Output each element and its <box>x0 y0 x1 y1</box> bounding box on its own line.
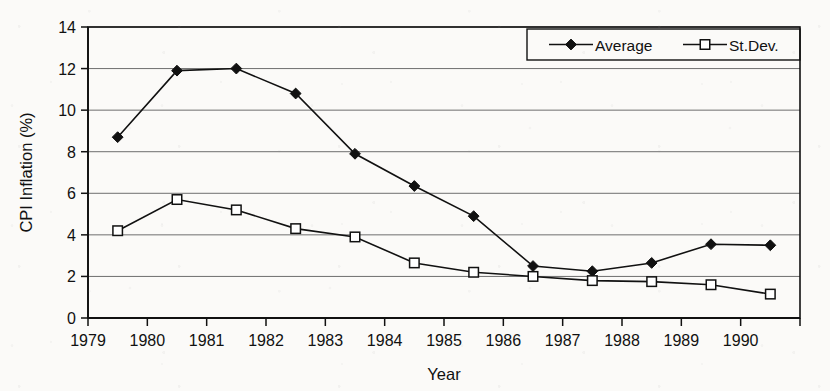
data-point-st-dev-3 <box>291 224 301 234</box>
x-tick-label-1981: 1981 <box>189 332 225 349</box>
data-point-average-2 <box>231 63 242 74</box>
data-point-st-dev-7 <box>528 272 538 282</box>
series-line-st-dev <box>118 200 771 295</box>
data-point-st-dev-8 <box>588 276 598 286</box>
series-line-average <box>118 69 771 272</box>
data-point-legend-0-legend <box>566 39 577 50</box>
data-point-st-dev-11 <box>766 289 776 299</box>
data-point-average-5 <box>409 181 420 192</box>
legend-label-1: St.Dev. <box>729 37 779 54</box>
x-tick-label-1979: 1979 <box>70 332 106 349</box>
x-axis-title: Year <box>427 365 461 383</box>
x-tick-label-1984: 1984 <box>367 332 403 349</box>
data-point-st-dev-5 <box>410 258 420 268</box>
x-tick-label-1982: 1982 <box>248 332 284 349</box>
x-tick-label-1987: 1987 <box>545 332 581 349</box>
y-tick-label-2: 2 <box>67 268 76 285</box>
y-tick-label-12: 12 <box>58 61 76 78</box>
data-point-average-10 <box>706 239 717 250</box>
data-point-st-dev-10 <box>706 280 716 290</box>
data-point-average-11 <box>765 240 776 251</box>
data-point-average-8 <box>587 266 598 277</box>
chart-figure: 0246810121419791980198119821983198419851… <box>0 0 830 391</box>
data-point-st-dev-6 <box>469 268 479 278</box>
y-tick-label-8: 8 <box>67 144 76 161</box>
y-tick-label-6: 6 <box>67 185 76 202</box>
y-tick-label-10: 10 <box>58 102 76 119</box>
data-point-st-dev-0 <box>113 226 123 236</box>
x-tick-label-1988: 1988 <box>604 332 640 349</box>
x-tick-label-1990: 1990 <box>723 332 759 349</box>
data-point-st-dev-4 <box>350 232 360 242</box>
data-point-st-dev-9 <box>647 277 657 287</box>
data-point-legend-1-legend <box>700 40 710 50</box>
y-tick-label-0: 0 <box>67 310 76 327</box>
data-point-st-dev-2 <box>232 205 242 215</box>
x-tick-label-1983: 1983 <box>308 332 344 349</box>
y-tick-label-14: 14 <box>58 19 76 36</box>
x-tick-label-1985: 1985 <box>426 332 462 349</box>
cpi-inflation-line-chart: 0246810121419791980198119821983198419851… <box>0 0 830 391</box>
data-point-average-9 <box>646 258 657 269</box>
x-tick-label-1980: 1980 <box>130 332 166 349</box>
legend-label-0: Average <box>595 37 652 54</box>
x-tick-label-1986: 1986 <box>486 332 522 349</box>
data-point-st-dev-1 <box>172 195 182 205</box>
y-tick-label-4: 4 <box>67 227 76 244</box>
y-axis-title: CPI Inflation (%) <box>17 112 35 232</box>
x-tick-label-1989: 1989 <box>664 332 700 349</box>
